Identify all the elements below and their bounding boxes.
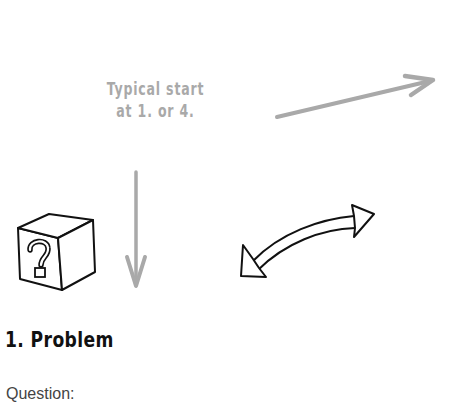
question-label: Question: (6, 385, 74, 403)
step-title: 1. Problem (5, 327, 114, 352)
